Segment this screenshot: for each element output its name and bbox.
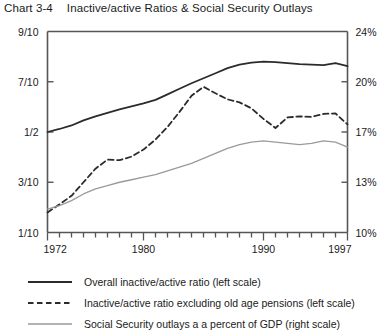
- left-axis-label-0.1: 1/10: [18, 227, 39, 239]
- x-axis-label-1997: 1997: [328, 243, 352, 255]
- right-axis-label-13: 13%: [356, 176, 377, 188]
- left-axis-label-0.5: 1/2: [24, 126, 39, 138]
- legend-label-0: Overall inactive/active ratio (left scal…: [84, 276, 261, 288]
- right-axis-label-24: 24%: [356, 26, 377, 38]
- x-axis-label-1972: 1972: [44, 243, 68, 255]
- right-axis-label-17: 17%: [356, 126, 377, 138]
- legend-label-2: Social Security outlays a a percent of G…: [84, 318, 340, 330]
- series-line-2: [48, 141, 348, 209]
- x-axis-label-1990: 1990: [252, 243, 276, 255]
- left-axis-label-0.3: 3/10: [18, 176, 39, 188]
- left-axis-label-0.9: 9/10: [18, 26, 39, 38]
- series-line-1: [48, 87, 348, 213]
- right-axis-label-10: 10%: [356, 227, 377, 239]
- left-axis-label-0.7: 7/10: [18, 76, 39, 88]
- series-line-0: [48, 62, 348, 132]
- legend-label-1: Inactive/active ratio excluding old age …: [84, 297, 355, 309]
- x-axis-label-1980: 1980: [132, 243, 156, 255]
- right-axis-label-20: 20%: [356, 76, 377, 88]
- chart-legend: Overall inactive/active ratio (left scal…: [0, 272, 389, 336]
- legend-svg: Overall inactive/active ratio (left scal…: [0, 272, 389, 336]
